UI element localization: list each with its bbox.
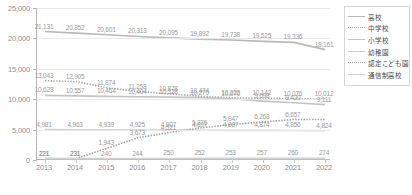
data-point-label: 10,404	[128, 87, 147, 94]
data-point-label: 20,852	[66, 24, 85, 31]
data-point-label: 10,270	[190, 88, 209, 95]
data-point-label: 18,161	[315, 40, 334, 47]
data-point-label: 4,824	[316, 121, 331, 128]
gridline	[37, 8, 330, 9]
y-axis-tick-label: 5,000	[0, 125, 30, 134]
y-axis-tick-label: 10,000	[0, 95, 30, 104]
plot-area	[36, 8, 330, 160]
data-point-label: 252	[194, 149, 204, 156]
data-point-label: 6,268	[254, 112, 269, 119]
data-point-label: 4,939	[99, 120, 114, 127]
x-axis-tick-label: 2020	[254, 163, 270, 172]
data-point-label: 10,628	[35, 86, 54, 93]
legend-label: 認定こども園	[368, 58, 409, 68]
y-tick-mark	[33, 99, 37, 100]
data-point-label: 5,276	[192, 118, 207, 125]
data-point-label: 21,131	[35, 22, 54, 29]
legend-item[interactable]: 通信制高校	[348, 69, 406, 81]
data-point-label: 12,905	[66, 72, 85, 79]
legend-item[interactable]: 高校	[348, 11, 406, 23]
y-axis-tick-label: 20,000	[0, 34, 30, 43]
x-axis-tick-label: 2022	[316, 163, 332, 172]
legend-label: 幼稚園	[368, 47, 388, 57]
data-point-label: 274	[319, 149, 329, 156]
data-point-label: 10,328	[159, 88, 178, 95]
y-tick-mark	[33, 130, 37, 131]
data-point-label: 4,925	[130, 121, 145, 128]
x-axis-tick-label: 2019	[223, 163, 239, 172]
y-tick-mark	[33, 8, 37, 9]
x-axis-tick-label: 2014	[67, 163, 83, 172]
legend: 高校中学校小学校幼稚園認定こども園通信制高校	[344, 6, 410, 86]
y-axis-tick-label: 15,000	[0, 64, 30, 73]
data-point-label: 1,943	[99, 139, 114, 146]
x-axis-tick-label: 2016	[129, 163, 145, 172]
data-point-label: 4,856	[285, 121, 300, 128]
gridline	[37, 69, 330, 70]
y-tick-mark	[33, 38, 37, 39]
legend-item[interactable]: 中学校	[348, 23, 406, 35]
data-point-label: 253	[226, 149, 236, 156]
data-point-label: 19,892	[190, 30, 209, 37]
data-point-label: 20,601	[97, 25, 116, 32]
legend-label: 小学校	[368, 35, 388, 45]
data-point-label: 4,981	[36, 120, 51, 127]
data-point-label: 6,657	[285, 110, 300, 117]
data-point-label: 5,847	[223, 115, 238, 122]
data-point-label: 10,557	[66, 86, 85, 93]
legend-item[interactable]: 小学校	[348, 34, 406, 46]
y-axis-tick-label: 25,000	[0, 4, 30, 13]
data-point-label: 3,673	[130, 128, 145, 135]
x-axis-tick-label: 2013	[36, 163, 52, 172]
x-axis-tick-label: 2015	[98, 163, 114, 172]
data-point-label: 240	[101, 149, 111, 156]
data-point-label: 19,738	[221, 30, 240, 37]
data-point-label: 19,525	[252, 32, 271, 39]
data-point-label: 257	[257, 149, 267, 156]
data-point-label: 4,874	[254, 121, 269, 128]
data-point-label: 221	[39, 149, 49, 156]
gridline	[37, 130, 330, 131]
legend-item[interactable]: 認定こども園	[348, 57, 406, 69]
data-point-label: 4,521	[161, 123, 176, 130]
data-point-label: 244	[132, 149, 142, 156]
data-point-label: 10,070	[221, 89, 240, 96]
legend-label: 中学校	[368, 23, 388, 33]
data-point-label: 250	[163, 149, 173, 156]
data-point-label: 260	[288, 149, 298, 156]
data-point-label: 9,698	[254, 92, 269, 99]
data-point-label: 11,874	[97, 78, 115, 85]
x-axis-tick-label: 2021	[285, 163, 301, 172]
data-point-label: 9,420	[285, 93, 300, 100]
data-point-label: 10,464	[97, 87, 116, 94]
line-chart: 05,00010,00015,00020,00025,000 201320142…	[0, 0, 412, 195]
data-point-label: 19,336	[284, 33, 303, 40]
y-axis-tick-label: 0	[0, 156, 30, 165]
data-point-label: 9,111	[317, 95, 331, 102]
x-axis-tick-label: 2018	[192, 163, 208, 172]
data-point-label: 13,043	[35, 71, 54, 78]
y-tick-mark	[33, 69, 37, 70]
legend-label: 高校	[368, 12, 382, 22]
data-point-label: 231	[70, 149, 80, 156]
legend-label: 通信制高校	[368, 70, 402, 80]
x-axis-tick-label: 2017	[160, 163, 176, 172]
data-point-label: 20,095	[159, 28, 178, 35]
data-point-label: 4,963	[67, 120, 82, 127]
legend-item[interactable]: 幼稚園	[348, 46, 406, 58]
series-line	[45, 120, 325, 159]
y-tick-mark	[33, 160, 37, 161]
data-point-label: 20,313	[128, 27, 147, 34]
series-lines	[37, 8, 331, 160]
